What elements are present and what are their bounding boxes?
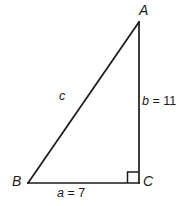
side-b-variable: b	[142, 94, 149, 108]
right-angle-marker-icon	[128, 172, 139, 183]
right-triangle-figure: A B C c b = 11 a = 7	[0, 0, 184, 206]
vertex-label-b: B	[12, 174, 21, 188]
side-c-hypotenuse	[28, 22, 139, 183]
vertex-label-a: A	[139, 3, 148, 17]
side-label-a: a = 7	[57, 187, 85, 200]
vertex-label-c: C	[143, 174, 153, 188]
side-a-value: = 7	[64, 186, 85, 200]
side-label-b: b = 11	[142, 95, 176, 108]
side-c-variable: c	[59, 89, 65, 103]
side-b-value: = 11	[149, 94, 176, 108]
side-a-variable: a	[57, 186, 64, 200]
side-label-c: c	[59, 90, 65, 103]
